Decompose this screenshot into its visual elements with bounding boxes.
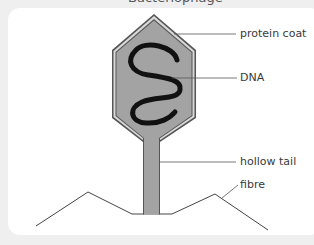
right-fibre <box>159 194 268 230</box>
diagram-stage: Bacteriophage protein coat DNA hollow t <box>0 0 314 245</box>
left-fibre <box>36 192 144 226</box>
label-hollow-tail: hollow tail <box>240 156 296 168</box>
label-protein-coat: protein coat <box>240 28 306 40</box>
fibre-leader <box>222 185 238 198</box>
label-fibre: fibre <box>240 179 265 191</box>
label-dna: DNA <box>240 72 264 84</box>
